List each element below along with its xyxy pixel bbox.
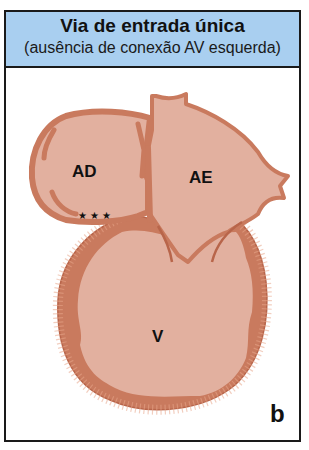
absent-av-connection-marker: ★★★ xyxy=(78,210,114,221)
left-atrium xyxy=(148,94,288,262)
ventricle xyxy=(58,216,267,410)
label-right-atrium: AD xyxy=(72,162,97,182)
label-left-atrium: AE xyxy=(189,168,213,188)
heart-diagram xyxy=(0,0,309,450)
panel-letter: b xyxy=(270,400,285,428)
label-ventricle: V xyxy=(152,327,163,347)
